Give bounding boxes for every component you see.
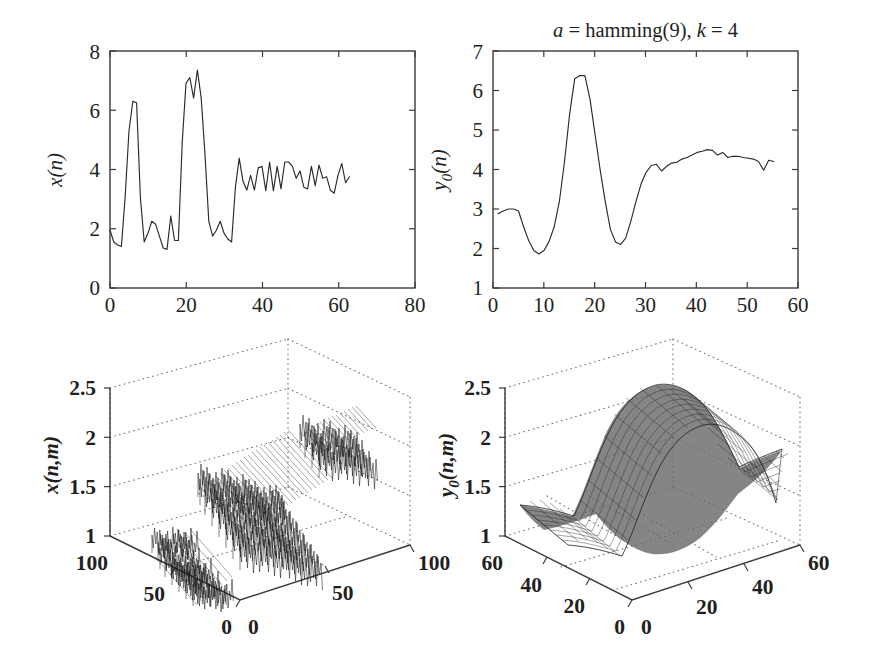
ytick-tr-0: 1 — [473, 276, 484, 300]
ylabel-tl: x(n) — [43, 153, 67, 188]
right-tick-br-0: 0 — [641, 615, 652, 639]
y-ticks-tr — [493, 51, 798, 288]
panel-x-of-n: 0 20 40 60 80 0 2 4 6 8 x(n) — [43, 40, 426, 318]
ztick-bl-2: 2 — [85, 426, 96, 450]
left-tick-bl-1: 50 — [144, 582, 166, 606]
ylabel-tr-main: y — [427, 181, 451, 193]
signal-curve-tr — [498, 76, 774, 254]
smooth-surface-br — [520, 384, 788, 556]
zlabel-bl: x(n,m) — [39, 436, 63, 495]
tick-labels-tr: 0 10 20 30 40 50 60 1 2 3 4 5 6 7 — [473, 40, 809, 318]
ylabel-tr: y0(n) — [427, 149, 455, 192]
zlabel-br: y0(n,m) — [434, 433, 462, 500]
xtick-tl-1: 20 — [176, 293, 197, 317]
right-tick-br-1: 20 — [696, 595, 718, 619]
ztick-br-1: 1.5 — [464, 475, 491, 499]
left-tick-br-1: 20 — [564, 594, 586, 618]
right-tick-bl-1: 50 — [332, 581, 354, 605]
figure-svg: 0 20 40 60 80 0 2 4 6 8 x(n) — [0, 0, 875, 655]
left-tick-bl-0: 0 — [221, 615, 232, 639]
ztick-br-3: 2.5 — [464, 376, 491, 400]
ytick-tr-5: 6 — [473, 79, 484, 103]
ztick-bl-3: 2.5 — [69, 376, 96, 400]
left-tick-br-3: 60 — [482, 551, 504, 575]
signal-curve-tl — [110, 70, 349, 249]
right-tick-bl-2: 100 — [418, 551, 450, 575]
xtick-tr-6: 60 — [788, 293, 809, 317]
xtick-tr-3: 30 — [635, 293, 656, 317]
left-tick-bl-2: 100 — [76, 551, 108, 575]
left-tick-br-0: 0 — [614, 615, 625, 639]
svg-text:y0(n): y0(n) — [427, 149, 455, 192]
ytick-tr-4: 5 — [473, 118, 484, 142]
left-tick-br-2: 40 — [521, 573, 543, 597]
zlabel-br-tail: (n,m) — [434, 433, 458, 480]
ytick-tl-0: 0 — [90, 276, 101, 300]
ztick-bl-0: 1 — [85, 524, 96, 548]
x-ticks-tr — [493, 51, 798, 288]
xtick-tr-2: 20 — [584, 293, 605, 317]
right-tick-bl-0: 0 — [248, 615, 259, 639]
ytick-tr-1: 2 — [473, 237, 484, 261]
ztick-br-2: 2 — [480, 426, 491, 450]
title-a: a — [553, 19, 563, 41]
panel-y0-of-n: 0 10 20 30 40 50 60 1 2 3 4 5 6 7 y0(n) — [427, 19, 809, 317]
right-tick-br-3: 60 — [808, 551, 830, 575]
z-ticks-br — [499, 388, 505, 536]
plot-box-tr — [493, 51, 798, 288]
z-ticks-bl — [104, 388, 110, 536]
ytick-tr-6: 7 — [473, 40, 484, 64]
xtick-tl-3: 60 — [328, 293, 349, 317]
ytick-tl-3: 6 — [90, 99, 101, 123]
ytick-tl-4: 8 — [90, 40, 101, 64]
title-eq2: = 4 — [706, 19, 738, 41]
ytick-tl-1: 2 — [90, 217, 101, 241]
xtick-tr-1: 10 — [533, 293, 554, 317]
xtick-tr-4: 40 — [686, 293, 707, 317]
ytick-tr-3: 4 — [473, 158, 484, 182]
ytick-tl-2: 4 — [90, 158, 101, 182]
panel-x-of-n-m: 1 1.5 2 2.5 100 50 0 0 50 100 x(n,m) — [39, 339, 450, 639]
svg-text:y0(n,m): y0(n,m) — [434, 433, 462, 500]
ztick-bl-1: 1.5 — [69, 475, 96, 499]
ztick-br-0: 1 — [480, 524, 491, 548]
panel-title-tr: a = hamming(9), k = 4 — [553, 19, 738, 42]
title-eq1: = hamming(9), — [563, 19, 696, 42]
zlabel-br-main: y — [434, 487, 458, 500]
ytick-tr-2: 3 — [473, 197, 484, 221]
xtick-tl-2: 40 — [252, 293, 273, 317]
panel-y0-of-n-m: 1 1.5 2 2.5 60 40 20 0 0 20 40 60 y0(n,m… — [434, 339, 830, 639]
xtick-tr-0: 0 — [488, 293, 499, 317]
ylabel-tr-tail: (n) — [427, 149, 451, 174]
xtick-tl-4: 80 — [405, 293, 426, 317]
figure-canvas: 0 20 40 60 80 0 2 4 6 8 x(n) — [0, 0, 875, 655]
xtick-tl-0: 0 — [105, 293, 116, 317]
right-tick-br-2: 40 — [752, 575, 774, 599]
xtick-tr-5: 50 — [737, 293, 758, 317]
